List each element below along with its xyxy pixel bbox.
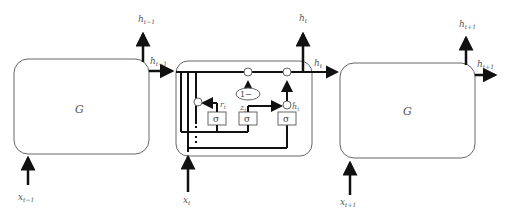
- update-gate-sigma: σ: [244, 114, 250, 124]
- right-cell-label: G: [403, 105, 412, 118]
- reset-gate-sigma: σ: [213, 114, 219, 124]
- right-output-right-label: ht+1: [477, 59, 494, 70]
- left-cell-label: G: [75, 103, 84, 116]
- gru-diagram: G xt−1 ht−1 ht−1 ht ht xt σ rt: [0, 0, 508, 216]
- left-output-up-label: ht−1: [138, 14, 155, 25]
- update-label: zt: [239, 103, 247, 113]
- middle-input-label: xt: [183, 195, 191, 206]
- candidate-gate-sigma: σ: [283, 114, 289, 124]
- right-cell: G xt+1 ht+1 ht+1: [340, 19, 495, 208]
- right-input-label: xt+1: [340, 197, 356, 208]
- one-minus: 1−: [240, 90, 252, 99]
- left-output-right-label: ht−1: [150, 56, 167, 67]
- reset-label: rt: [220, 100, 227, 110]
- middle-output-up-label: ht: [299, 13, 308, 24]
- middle-cell: ht ht xt σ rt σ 1− zt σ: [176, 13, 337, 206]
- left-cell: G xt−1 ht−1 ht−1: [14, 14, 172, 203]
- right-output-up-label: ht+1: [459, 19, 476, 30]
- left-input-label: xt−1: [18, 192, 34, 203]
- middle-output-right-label: ht: [314, 58, 323, 69]
- candidate-label: h̃t: [292, 102, 300, 112]
